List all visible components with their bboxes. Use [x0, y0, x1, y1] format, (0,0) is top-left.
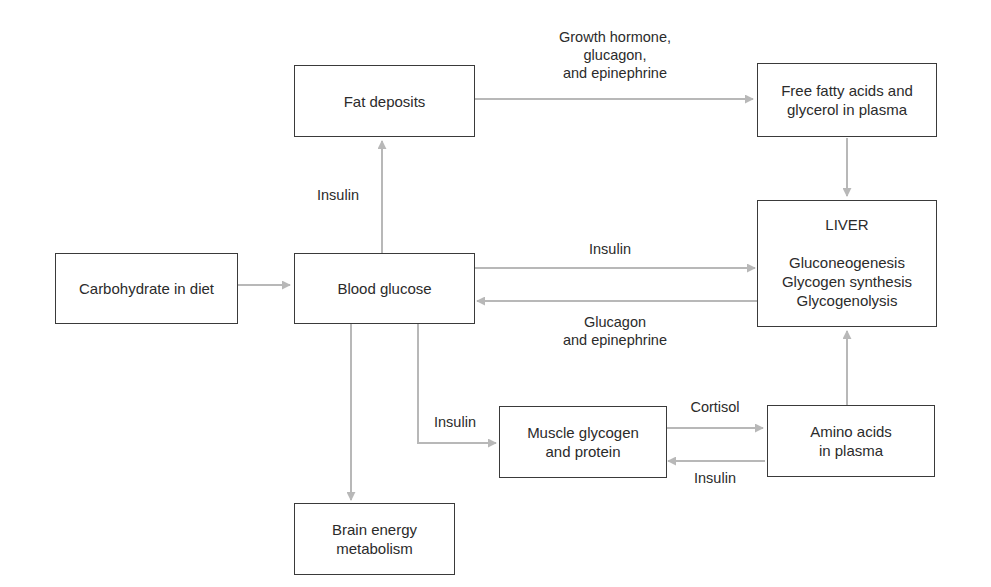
- node-label: Fat deposits: [344, 92, 426, 111]
- label-line: Cortisol: [675, 398, 755, 416]
- node-label: metabolism: [336, 539, 413, 558]
- node-label: Free fatty acids and: [781, 81, 913, 100]
- node-label: Glycogen synthesis: [782, 272, 912, 291]
- node-label: Carbohydrate in diet: [79, 279, 214, 298]
- label-blood-to-liver: Insulin: [575, 240, 645, 258]
- node-label: Brain energy: [332, 520, 417, 539]
- node-label: glycerol in plasma: [787, 100, 907, 119]
- label-line: and epinephrine: [550, 331, 680, 349]
- label-blood-to-muscle: Insulin: [425, 413, 485, 431]
- liver-title: LIVER: [825, 215, 868, 234]
- node-label: Muscle glycogen: [527, 423, 639, 442]
- glucose-regulation-diagram: Fat deposits Free fatty acids and glycer…: [0, 0, 991, 587]
- label-line: Insulin: [425, 413, 485, 431]
- node-amino-acids: Amino acids in plasma: [767, 405, 935, 477]
- label-liver-to-blood: Glucagon and epinephrine: [550, 313, 680, 349]
- label-line: Insulin: [680, 469, 750, 487]
- node-blood-glucose: Blood glucose: [294, 253, 475, 324]
- label-line: Growth hormone,: [540, 28, 690, 46]
- node-label: Gluconeogenesis: [789, 253, 905, 272]
- node-muscle-glycogen: Muscle glycogen and protein: [499, 406, 667, 478]
- node-carbohydrate-in-diet: Carbohydrate in diet: [55, 253, 238, 324]
- label-line: glucagon,: [540, 46, 690, 64]
- node-fat-deposits: Fat deposits: [294, 65, 475, 137]
- label-fat-to-ffa: Growth hormone, glucagon, and epinephrin…: [540, 28, 690, 82]
- node-brain-energy-metabolism: Brain energy metabolism: [294, 503, 455, 575]
- label-line: Glucagon: [550, 313, 680, 331]
- label-blood-to-fat: Insulin: [308, 186, 368, 204]
- label-line: Insulin: [575, 240, 645, 258]
- label-muscle-to-amino: Cortisol: [675, 398, 755, 416]
- node-free-fatty-acids: Free fatty acids and glycerol in plasma: [757, 63, 937, 137]
- node-label: Glycogenolysis: [797, 291, 898, 310]
- label-amino-to-muscle: Insulin: [680, 469, 750, 487]
- label-line: Insulin: [308, 186, 368, 204]
- node-label: Blood glucose: [337, 279, 431, 298]
- node-liver: LIVER Gluconeogenesis Glycogen synthesis…: [757, 200, 937, 327]
- node-label: Amino acids: [810, 422, 892, 441]
- node-label: in plasma: [819, 441, 883, 460]
- node-label: and protein: [545, 442, 620, 461]
- label-line: and epinephrine: [540, 64, 690, 82]
